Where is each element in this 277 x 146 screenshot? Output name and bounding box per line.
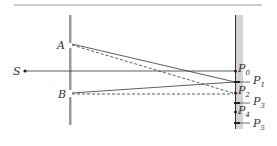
ray-a-p2 [72, 45, 233, 93]
label-p1: P1 [252, 74, 265, 89]
double-slit-diagram: S A B P0 P1 P2 P3 P4 P5 [0, 0, 277, 146]
label-p3: P3 [252, 95, 265, 110]
label-b: B [57, 88, 66, 101]
ray-b-p1 [72, 82, 235, 93]
label-p5: P5 [252, 117, 265, 132]
label-p0: P0 [237, 62, 250, 77]
label-p2: P2 [237, 84, 250, 99]
label-p4: P4 [237, 104, 250, 119]
slit-barrier [69, 15, 72, 125]
label-a: A [56, 39, 65, 52]
source-point [23, 69, 26, 72]
ray-a-p1 [72, 44, 235, 82]
label-s: S [13, 65, 21, 78]
